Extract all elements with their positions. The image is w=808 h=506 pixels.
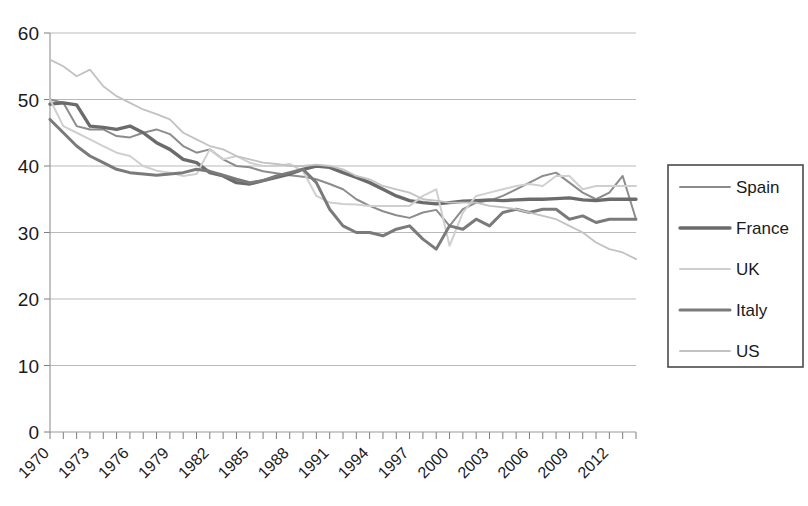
x-tick-label: 1979 <box>135 444 172 481</box>
x-tick-label: 1976 <box>95 444 132 481</box>
x-axis-tick-marks <box>50 432 636 439</box>
data-series-group <box>50 60 636 260</box>
x-tick-label: 2012 <box>574 444 611 481</box>
y-tick-label: 60 <box>18 23 39 44</box>
legend-label-france[interactable]: France <box>736 219 789 238</box>
x-tick-label: 1997 <box>375 444 412 481</box>
y-tick-label: 30 <box>18 223 39 244</box>
x-tick-label: 1985 <box>215 444 252 481</box>
legend-label-uk[interactable]: UK <box>736 260 760 279</box>
legend-label-us[interactable]: US <box>736 342 760 361</box>
x-tick-label: 1973 <box>55 444 92 481</box>
line-chart: 0102030405060 19701973197619791982198519… <box>0 0 808 506</box>
y-axis-tick-labels: 0102030405060 <box>18 23 39 443</box>
y-tick-label: 40 <box>18 156 39 177</box>
x-tick-label: 2000 <box>414 444 451 481</box>
chart-canvas: 0102030405060 19701973197619791982198519… <box>0 0 808 506</box>
x-tick-label: 1994 <box>335 444 372 481</box>
legend-label-italy[interactable]: Italy <box>736 301 768 320</box>
x-tick-label: 2006 <box>494 444 531 481</box>
x-tick-label: 1970 <box>15 444 52 481</box>
y-tick-label: 10 <box>18 356 39 377</box>
y-tick-label: 50 <box>18 90 39 111</box>
x-axis-tick-labels: 1970197319761979198219851988199119941997… <box>15 444 612 481</box>
x-tick-label: 2003 <box>454 444 491 481</box>
x-tick-label: 1991 <box>295 444 332 481</box>
series-line-italy <box>50 119 636 249</box>
series-line-us <box>50 60 636 260</box>
x-tick-label: 1982 <box>175 444 212 481</box>
x-tick-label: 1988 <box>255 444 292 481</box>
chart-legend: SpainFranceUKItalyUS <box>668 165 803 367</box>
gridlines-group <box>44 33 636 432</box>
y-tick-label: 0 <box>28 422 39 443</box>
y-tick-label: 20 <box>18 289 39 310</box>
legend-label-spain[interactable]: Spain <box>736 178 779 197</box>
x-tick-label: 2009 <box>534 444 571 481</box>
